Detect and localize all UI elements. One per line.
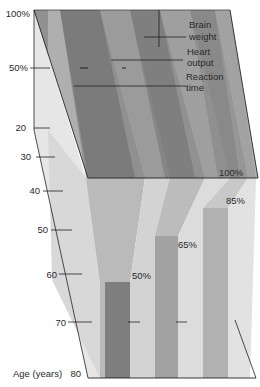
label-reaction-time-1: Reaction xyxy=(186,71,224,82)
age-decline-3d-chart: 100% 50% 20 30 40 50 60 70 Age (years) 8… xyxy=(0,0,260,387)
label-heart-output-1: Heart xyxy=(187,46,211,57)
age-label-20: 20 xyxy=(15,122,26,133)
bar-brain-weight xyxy=(203,208,228,378)
age-label-40: 40 xyxy=(29,185,40,196)
age-label-60: 60 xyxy=(46,269,57,280)
age-label-50: 50 xyxy=(37,224,48,235)
label-brain-weight-2: weight xyxy=(188,31,217,42)
age-axis-title: Age (years) xyxy=(13,368,62,379)
age-label-30: 30 xyxy=(20,151,31,162)
reaction-time-end-label: 50% xyxy=(132,270,152,281)
bar-heart-output xyxy=(155,236,178,378)
plane-100pct-label: 100% xyxy=(219,167,244,178)
heart-output-end-label: 65% xyxy=(178,239,198,250)
bar-reaction-time xyxy=(105,282,130,378)
label-reaction-time-2: time xyxy=(186,82,204,93)
y-label-50: 50% xyxy=(9,62,29,73)
brain-weight-end-label: 85% xyxy=(226,195,246,206)
label-brain-weight-1: Brain xyxy=(189,19,211,30)
age-label-80: 80 xyxy=(70,368,81,379)
y-label-100: 100% xyxy=(6,8,31,19)
age-label-70: 70 xyxy=(55,317,66,328)
label-heart-output-2: output xyxy=(187,57,214,68)
